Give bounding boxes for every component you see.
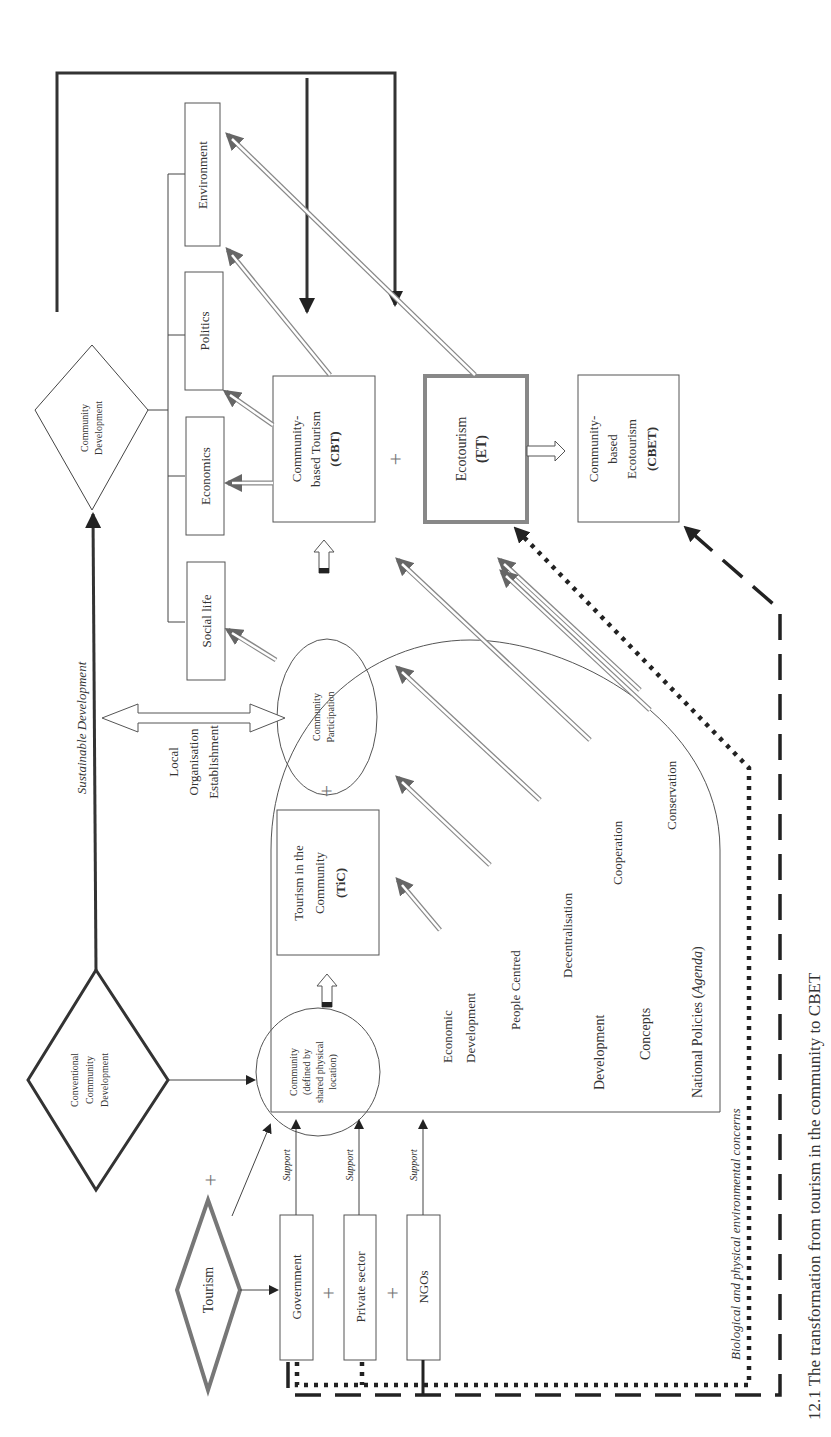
svg-text:shared physical: shared physical [314, 1041, 325, 1103]
ecotourism-box: Ecotourism (ET) [425, 376, 527, 522]
plus-icon: + [316, 1287, 341, 1299]
et-to-cbet-arrow [527, 441, 565, 461]
svg-text:Economics: Economics [198, 447, 213, 505]
svg-text:Development: Development [592, 1014, 607, 1090]
svg-text:(CBT): (CBT) [327, 431, 342, 466]
stakeholder-government: Government Support [280, 1121, 313, 1360]
svg-text:(defined by: (defined by [301, 1049, 313, 1095]
svg-text:Tourism in the: Tourism in the [291, 845, 306, 921]
svg-text:Support: Support [408, 1149, 419, 1181]
svg-text:(TiC): (TiC) [333, 868, 348, 898]
svg-text:Cooperation: Cooperation [610, 820, 625, 885]
svg-text:Community: Community [288, 1048, 299, 1096]
community-development-diamond: Community Development [35, 345, 148, 510]
cbet-box: Community- based Ecotourism (CBET) [578, 375, 679, 522]
svg-text:Private sector: Private sector [353, 1251, 368, 1323]
svg-text:Community: Community [84, 1056, 95, 1104]
svg-text:Decentralisation: Decentralisation [560, 892, 575, 978]
plus-icon: + [314, 785, 339, 797]
svg-text:based Tourism: based Tourism [308, 411, 323, 487]
plus-icon: + [383, 453, 408, 465]
local-organisation-arrow: Local Organisation Establishment [102, 704, 285, 799]
arrow-base-mark [319, 568, 329, 573]
community-development-label-1: Community [79, 404, 90, 452]
svg-text:People Centred: People Centred [508, 950, 523, 1030]
svg-text:Support: Support [344, 1149, 355, 1181]
outcome-politics: Politics [185, 272, 223, 390]
community-location-ellipse: Community (defined by shared physical lo… [256, 1008, 380, 1136]
outcome-environment: Environment [185, 103, 220, 246]
svg-text:(CBET): (CBET) [644, 427, 659, 471]
cbt-box: Community- based Tourism (CBT) [273, 376, 375, 522]
svg-text:Community: Community [311, 693, 322, 741]
svg-text:Ecotourism: Ecotourism [624, 419, 639, 479]
stakeholder-ngos: NGOs Support [407, 1121, 440, 1360]
plus-icon: + [380, 1287, 405, 1299]
svg-text:Conventional: Conventional [69, 1053, 80, 1107]
arrow-base-mark [322, 1002, 332, 1007]
svg-text:Ecotourism: Ecotourism [454, 417, 469, 482]
svg-text:Development: Development [99, 1053, 110, 1107]
svg-text:Organisation: Organisation [186, 728, 201, 795]
svg-text:Support: Support [281, 1149, 292, 1181]
svg-text:based: based [605, 434, 620, 464]
svg-text:Government: Government [289, 1254, 304, 1319]
svg-text:Community-: Community- [586, 416, 601, 482]
svg-text:(ET): (ET) [474, 435, 490, 463]
figure-caption: 12.1 The transformation from tourism in … [805, 972, 824, 1420]
cbet-transformation-diagram: Community Development Environment Politi… [0, 0, 831, 1437]
svg-text:Community: Community [312, 851, 327, 914]
stakeholder-private-sector: Private sector Support [344, 1121, 376, 1360]
svg-text:location): location) [327, 1054, 339, 1090]
svg-text:Conservation: Conservation [664, 760, 679, 830]
svg-text:Politics: Politics [197, 311, 212, 350]
tic-box: Tourism in the Community (TiC) [277, 810, 379, 955]
svg-text:Concepts: Concepts [638, 1008, 653, 1060]
svg-text:Local: Local [166, 747, 181, 777]
community-development-label-2: Development [93, 401, 104, 455]
svg-text:Development: Development [463, 993, 478, 1063]
svg-text:Establishment: Establishment [206, 725, 221, 799]
sustainable-development-line: Sustainable Development [74, 514, 96, 970]
cd-feedback-frame [57, 73, 395, 312]
svg-text:Community-: Community- [289, 416, 304, 482]
outcomes-bracket [148, 174, 185, 622]
environmental-concerns-label: Biological and physical environmental co… [728, 1108, 743, 1360]
svg-text:Economic: Economic [440, 1010, 455, 1063]
svg-text:NGOs: NGOs [416, 1270, 431, 1303]
community-participation-ellipse: Community Participation [277, 639, 377, 795]
outcome-economics: Economics [186, 417, 224, 535]
svg-text:Tourism: Tourism [201, 1267, 216, 1314]
outcome-social-life: Social life [187, 562, 225, 680]
svg-text:Environment: Environment [195, 141, 210, 209]
sustainable-development-label: Sustainable Development [74, 661, 89, 794]
plus-icon: + [198, 1174, 223, 1186]
tourism-diamond: Tourism [177, 1125, 277, 1390]
svg-text:Social life: Social life [199, 594, 214, 647]
conventional-cd-diamond: Conventional Community Development [28, 970, 254, 1190]
national-policies-label: National Policies (Agenda) [690, 946, 706, 1098]
